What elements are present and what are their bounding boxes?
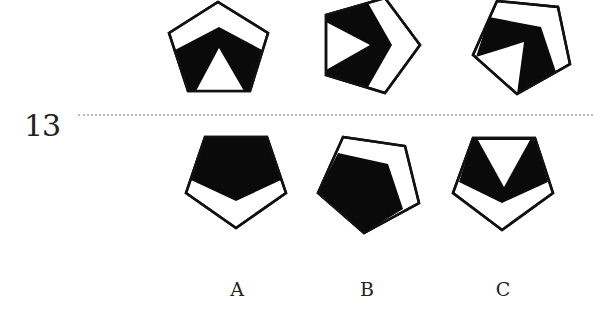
option-a-figure[interactable] (186, 137, 286, 228)
figure-canvas (0, 0, 593, 311)
sequence-figure-3 (473, 1, 570, 94)
option-a-label[interactable]: A (230, 278, 244, 300)
option-b-label[interactable]: B (360, 278, 374, 300)
option-c-label[interactable]: C (496, 278, 511, 300)
sequence-figure-1 (169, 2, 268, 91)
option-c-figure[interactable] (453, 138, 553, 230)
sequence-figure-2 (326, 0, 420, 93)
option-b-figure[interactable] (318, 137, 419, 233)
